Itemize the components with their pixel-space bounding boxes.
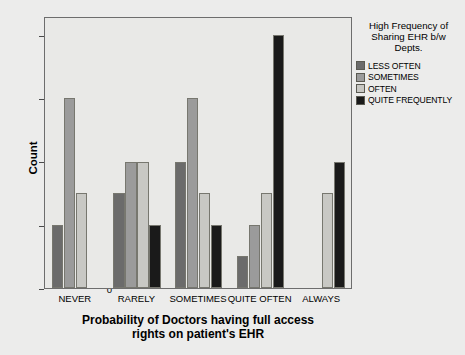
- bar: [211, 225, 222, 288]
- bar: [273, 35, 284, 288]
- bar: [175, 162, 186, 289]
- bar: [149, 225, 160, 288]
- legend: High Frequency ofSharing EHR b/wDepts. L…: [356, 20, 463, 106]
- bar: [322, 193, 333, 288]
- x-tick-label: QUITE OFTEN: [228, 293, 292, 304]
- legend-swatch-icon: [356, 73, 365, 82]
- legend-item[interactable]: LESS OFTEN: [356, 60, 463, 71]
- bar: [187, 98, 198, 288]
- bar: [199, 193, 210, 288]
- bar: [52, 225, 63, 288]
- legend-title-line: Sharing EHR b/w: [356, 31, 461, 42]
- x-axis-title-line: rights on patient's EHR: [44, 328, 352, 342]
- legend-item[interactable]: QUITE FREQUENTLY: [356, 95, 463, 106]
- legend-item[interactable]: OFTEN: [356, 83, 463, 94]
- legend-title: High Frequency ofSharing EHR b/wDepts.: [356, 20, 463, 53]
- x-tick-label: RARELY: [118, 293, 155, 304]
- legend-swatch-icon: [356, 84, 365, 93]
- legend-title-line: Depts.: [356, 42, 461, 53]
- bar: [237, 256, 248, 288]
- x-tick-label: NEVER: [58, 293, 91, 304]
- x-axis-title: Probability of Doctors having full acces…: [44, 314, 352, 341]
- chart-figure: Count 02468 NEVERRARELYSOMETIMESQUITE OF…: [0, 0, 465, 355]
- plot-area: [44, 17, 352, 289]
- legend-item-label: QUITE FREQUENTLY: [368, 95, 452, 105]
- bar: [76, 193, 87, 288]
- legend-title-line: High Frequency of: [356, 20, 461, 31]
- bar: [249, 225, 260, 288]
- bar: [113, 193, 124, 288]
- legend-item[interactable]: SOMETIMES: [356, 72, 463, 83]
- legend-swatch-icon: [356, 61, 365, 70]
- legend-items: LESS OFTENSOMETIMESOFTENQUITE FREQUENTLY: [356, 60, 463, 106]
- y-tick-mark: [39, 289, 44, 290]
- bar: [137, 162, 148, 289]
- legend-swatch-icon: [356, 96, 365, 105]
- legend-item-label: LESS OFTEN: [368, 61, 421, 71]
- x-tick-label: ALWAYS: [302, 293, 340, 304]
- legend-item-label: OFTEN: [368, 84, 397, 94]
- bars-container: [45, 18, 351, 288]
- bar: [64, 98, 75, 288]
- bar: [334, 162, 345, 289]
- x-tick-label: SOMETIMES: [169, 293, 226, 304]
- x-axis-title-line: Probability of Doctors having full acces…: [44, 314, 352, 328]
- legend-item-label: SOMETIMES: [368, 72, 419, 82]
- bar: [125, 162, 136, 289]
- bar: [261, 193, 272, 288]
- y-axis-title: Count: [27, 118, 39, 198]
